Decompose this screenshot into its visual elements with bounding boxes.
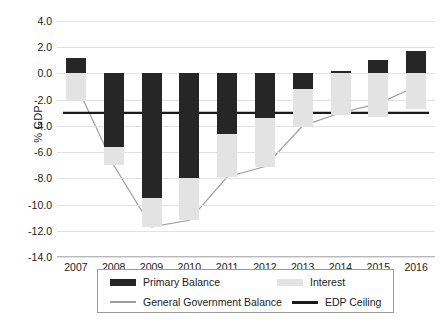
bar-primary-balance [104, 73, 124, 146]
y-axis-tick-label: -6.0 [34, 146, 52, 158]
bar-interest [255, 118, 275, 167]
gridline [57, 231, 435, 232]
x-axis-tick-label: 2016 [404, 261, 427, 273]
chart-figure: % GDP 4.02.00.0-2.0-4.0-6.0-8.0-10.0-12.… [0, 0, 443, 323]
bar-interest [104, 147, 124, 165]
bar-primary-balance [368, 60, 388, 73]
bar-interest [217, 134, 237, 177]
legend-label-general-government-balance: General Government Balance [143, 296, 282, 308]
y-axis-tick-label: -8.0 [34, 172, 52, 184]
gridline [57, 47, 435, 48]
y-axis-tick-label: -4.0 [34, 120, 52, 132]
interest-bar-swatch [277, 279, 303, 286]
y-axis-tick-label: -14.0 [28, 251, 52, 263]
bar-primary-balance [331, 71, 351, 74]
bar-primary-balance [406, 51, 426, 73]
primary-bar-swatch [110, 279, 136, 286]
bar-interest [142, 198, 162, 227]
gridline [57, 205, 435, 206]
legend-item-interest: Interest [277, 276, 345, 288]
y-axis-tick-label: 0.0 [37, 67, 52, 79]
bar-interest [331, 73, 351, 115]
bar-primary-balance [293, 73, 313, 89]
bar-primary-balance [179, 73, 199, 178]
ggb-line-swatch [110, 301, 136, 303]
y-axis-tick-label: -12.0 [28, 225, 52, 237]
bar-primary-balance [66, 58, 86, 74]
legend-item-edp-ceiling: EDP Ceiling [292, 296, 381, 308]
x-axis-tick-label: 2007 [64, 261, 87, 273]
gridline [57, 257, 435, 258]
legend-label-primary-balance: Primary Balance [143, 276, 220, 288]
gridline [57, 178, 435, 179]
bar-interest [66, 73, 86, 99]
legend-label-interest: Interest [310, 276, 345, 288]
y-axis-tick-label: 2.0 [37, 41, 52, 53]
bar-primary-balance [142, 73, 162, 198]
bar-primary-balance [255, 73, 275, 118]
bar-interest [368, 73, 388, 116]
y-axis-tick-label: -10.0 [28, 199, 52, 211]
legend-label-edp-ceiling: EDP Ceiling [325, 296, 381, 308]
legend-item-general-government-balance: General Government Balance [110, 296, 282, 308]
y-axis-tick-label: 4.0 [37, 15, 52, 27]
bar-interest [179, 178, 199, 220]
y-axis-tick-label: -2.0 [34, 94, 52, 106]
edp-line-swatch [292, 301, 318, 304]
chart-legend: Primary Balance Interest General Governm… [97, 269, 394, 313]
plot-area: 4.02.00.0-2.0-4.0-6.0-8.0-10.0-12.0-14.0… [57, 21, 435, 257]
legend-item-primary-balance: Primary Balance [110, 276, 220, 288]
bar-interest [406, 73, 426, 108]
bar-primary-balance [217, 73, 237, 133]
bar-interest [293, 89, 313, 126]
gridline [57, 21, 435, 22]
